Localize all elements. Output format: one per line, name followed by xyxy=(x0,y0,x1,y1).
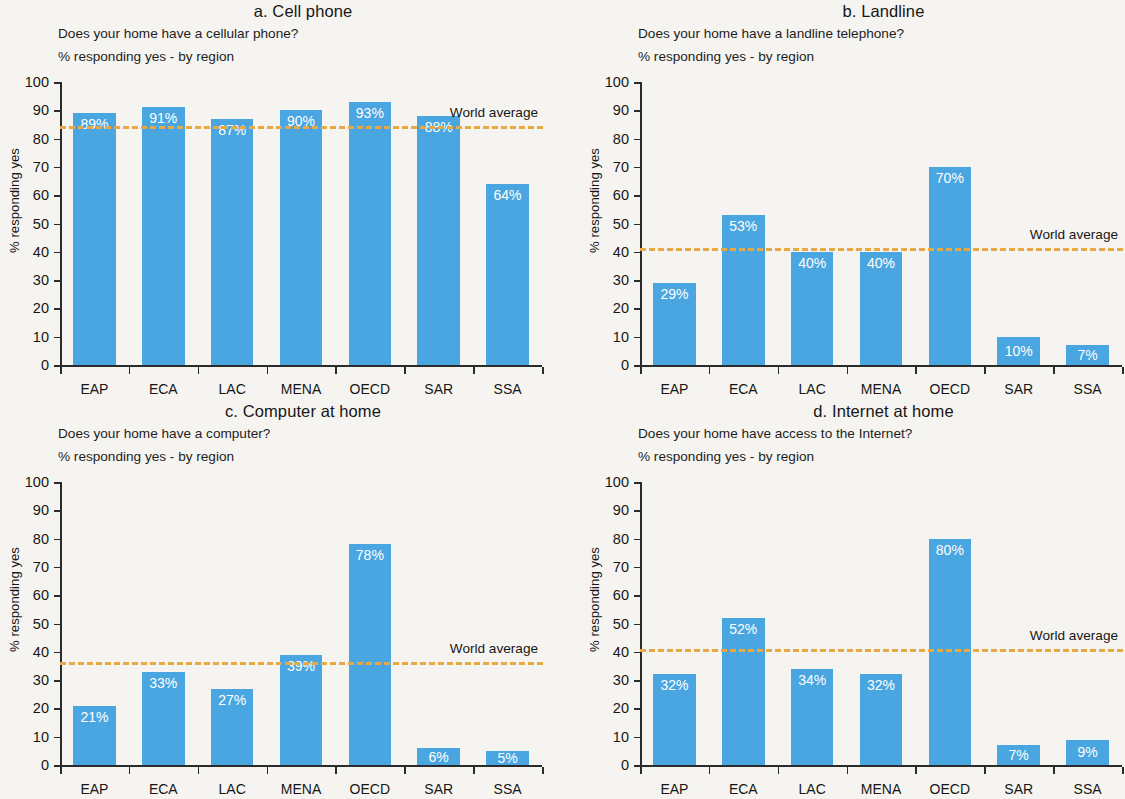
x-axis-tick xyxy=(915,367,917,374)
x-axis-tick xyxy=(542,367,544,374)
y-axis-tick-label: 80 xyxy=(613,131,629,147)
x-axis-tick xyxy=(778,367,780,374)
bar-oecd: 78% xyxy=(349,544,392,765)
bar-ssa: 64% xyxy=(486,184,529,365)
y-axis-tick xyxy=(634,224,640,226)
bar-value-label: 64% xyxy=(486,187,529,203)
panel-d-question: Does your home have access to the Intern… xyxy=(638,426,912,441)
panel-c-title: c. Computer at home xyxy=(0,402,584,421)
x-axis-tick xyxy=(198,767,200,774)
y-axis-tick xyxy=(634,139,640,141)
y-axis-tick-label: 40 xyxy=(33,644,49,660)
y-axis-tick xyxy=(54,82,60,84)
x-axis-label-lac: LAC xyxy=(799,781,826,797)
bar-eap: 21% xyxy=(73,706,116,765)
bar-value-label: 27% xyxy=(211,692,254,708)
x-axis-label-ssa: SSA xyxy=(1074,781,1102,797)
bar-eca: 91% xyxy=(142,107,185,365)
x-axis-tick xyxy=(267,367,269,374)
y-axis-tick-label: 50 xyxy=(33,616,49,632)
bar-eap: 29% xyxy=(653,283,696,365)
y-axis-tick xyxy=(634,167,640,169)
y-axis-tick-label: 0 xyxy=(621,357,629,373)
world-average-line xyxy=(60,662,543,665)
y-axis-tick-label: 100 xyxy=(25,74,49,90)
x-axis-label-oecd: OECD xyxy=(350,381,390,397)
panel-a-plot-area: 010203040506070809010089%EAP91%ECA87%LAC… xyxy=(60,82,542,367)
figure-grid: a. Cell phone Does your home have a cell… xyxy=(0,0,1125,799)
bar-value-label: 52% xyxy=(722,621,765,637)
y-axis-tick-label: 50 xyxy=(613,216,629,232)
y-axis-tick xyxy=(634,252,640,254)
x-axis-tick xyxy=(984,367,986,374)
bar-mena: 90% xyxy=(280,110,323,365)
y-axis-tick-label: 70 xyxy=(613,559,629,575)
x-axis-label-eca: ECA xyxy=(729,781,758,797)
y-axis-tick xyxy=(634,110,640,112)
bar-value-label: 87% xyxy=(211,122,254,138)
y-axis-tick-label: 0 xyxy=(41,757,49,773)
x-axis-tick xyxy=(404,767,406,774)
panel-b-landline: b. Landline Does your home have a landli… xyxy=(562,0,1125,400)
x-axis-tick xyxy=(984,767,986,774)
y-axis-line xyxy=(60,82,62,367)
x-axis-label-oecd: OECD xyxy=(930,381,970,397)
y-axis-tick xyxy=(634,482,640,484)
y-axis-tick-label: 40 xyxy=(33,244,49,260)
panel-a-question: Does your home have a cellular phone? xyxy=(58,26,298,41)
y-axis-tick-label: 50 xyxy=(33,216,49,232)
y-axis-tick-label: 30 xyxy=(613,272,629,288)
y-axis-tick-label: 80 xyxy=(33,131,49,147)
y-axis-tick-label: 20 xyxy=(33,700,49,716)
y-axis-tick xyxy=(634,195,640,197)
bar-lac: 40% xyxy=(791,252,834,365)
y-axis-tick-label: 80 xyxy=(613,531,629,547)
bar-eap: 89% xyxy=(73,113,116,365)
y-axis-tick-label: 70 xyxy=(613,159,629,175)
x-axis-label-oecd: OECD xyxy=(350,781,390,797)
y-axis-tick xyxy=(54,652,60,654)
x-axis-tick xyxy=(1122,767,1124,774)
bar-eca: 52% xyxy=(722,618,765,765)
y-axis-tick-label: 10 xyxy=(613,329,629,345)
x-axis-tick xyxy=(1053,367,1055,374)
bar-value-label: 89% xyxy=(73,116,116,132)
y-axis-tick-label: 90 xyxy=(613,102,629,118)
bar-value-label: 40% xyxy=(791,255,834,271)
bar-value-label: 6% xyxy=(417,748,460,764)
x-axis-tick xyxy=(709,367,711,374)
x-axis-label-eap: EAP xyxy=(660,381,688,397)
panel-c-plot-area: 010203040506070809010021%EAP33%ECA27%LAC… xyxy=(60,482,542,767)
bar-lac: 27% xyxy=(211,689,254,765)
x-axis-label-ssa: SSA xyxy=(1074,381,1102,397)
panel-d-title: d. Internet at home xyxy=(562,402,1125,421)
bar-sar: 6% xyxy=(417,748,460,765)
y-axis-tick-label: 0 xyxy=(41,357,49,373)
y-axis-tick-label: 100 xyxy=(25,474,49,490)
bar-oecd: 93% xyxy=(349,102,392,365)
y-axis-tick xyxy=(54,337,60,339)
y-axis-tick-label: 10 xyxy=(33,729,49,745)
x-axis-tick xyxy=(267,767,269,774)
y-axis-tick xyxy=(54,110,60,112)
bar-value-label: 7% xyxy=(1066,347,1109,363)
bar-ssa: 5% xyxy=(486,751,529,765)
y-axis-tick xyxy=(634,680,640,682)
x-axis-line xyxy=(640,765,1122,767)
y-axis-tick-label: 50 xyxy=(613,616,629,632)
bar-value-label: 39% xyxy=(280,658,323,674)
x-axis-label-sar: SAR xyxy=(1004,781,1033,797)
x-axis-label-eca: ECA xyxy=(149,781,178,797)
panel-d-subtitle: % responding yes - by region xyxy=(638,449,814,464)
panel-a-title: a. Cell phone xyxy=(0,2,584,21)
bar-mena: 40% xyxy=(860,252,903,365)
y-axis-tick xyxy=(634,708,640,710)
x-axis-label-lac: LAC xyxy=(219,781,246,797)
y-axis-tick xyxy=(54,195,60,197)
y-axis-tick-label: 40 xyxy=(613,644,629,660)
y-axis-tick-label: 100 xyxy=(605,74,629,90)
world-average-line xyxy=(60,126,543,129)
y-axis-tick-label: 80 xyxy=(33,531,49,547)
y-axis-tick-label: 0 xyxy=(621,757,629,773)
y-axis-tick-label: 60 xyxy=(33,587,49,603)
